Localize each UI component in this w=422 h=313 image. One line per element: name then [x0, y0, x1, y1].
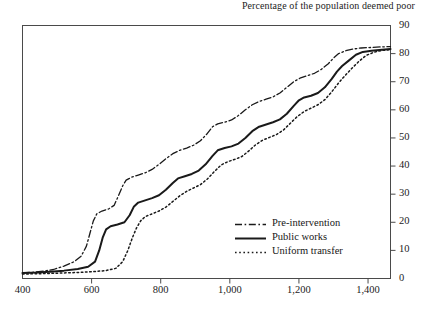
- plot-frame: [23, 26, 391, 279]
- legend-label-pre-intervention: Pre-intervention: [272, 217, 340, 228]
- y-tick-label: 90: [399, 19, 410, 30]
- y-tick-label: 10: [399, 243, 410, 254]
- series-line-public-works: [23, 49, 391, 273]
- x-tick-label: 1,000: [200, 284, 260, 295]
- chart-figure: Percentage of the population deemed poor…: [0, 0, 422, 313]
- x-tick-label: 600: [62, 284, 122, 295]
- y-tick-label: 20: [399, 215, 410, 226]
- y-tick-label: 80: [399, 47, 410, 58]
- y-axis-ticks: [391, 54, 396, 251]
- data-series-group: [23, 47, 391, 274]
- legend-label-public-works: Public works: [272, 231, 327, 242]
- y-tick-label: 40: [399, 159, 410, 170]
- legend-label-uniform-transfer: Uniform transfer: [272, 245, 343, 256]
- x-tick-label: 1,400: [338, 284, 398, 295]
- legend-line-samples: [235, 225, 266, 253]
- y-tick-label: 70: [399, 75, 410, 86]
- y-tick-label: 50: [399, 131, 410, 142]
- y-tick-label: 30: [399, 187, 410, 198]
- chart-title: Percentage of the population deemed poor: [150, 0, 415, 11]
- x-axis-ticks: [92, 279, 368, 284]
- x-tick-label: 400: [0, 284, 53, 295]
- y-tick-label: 60: [399, 103, 410, 114]
- series-line-pre-intervention: [23, 47, 391, 273]
- x-tick-label: 1,200: [269, 284, 329, 295]
- x-tick-label: 800: [131, 284, 191, 295]
- y-tick-label: 0: [399, 272, 404, 283]
- chart-plot-area: [0, 0, 422, 313]
